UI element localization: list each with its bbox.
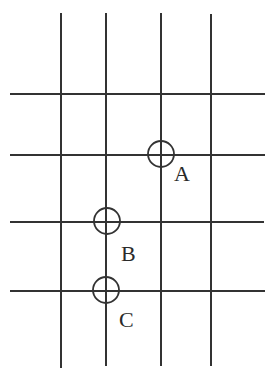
point-b: B [94, 208, 136, 266]
grid-diagram: A B C [0, 0, 267, 374]
point-a: A [148, 141, 190, 186]
point-c-label: C [119, 307, 134, 332]
point-a-label: A [174, 161, 190, 186]
horizontal-lines [10, 94, 265, 291]
point-c: C [93, 277, 134, 332]
vertical-lines [61, 13, 211, 368]
point-b-label: B [121, 241, 136, 266]
